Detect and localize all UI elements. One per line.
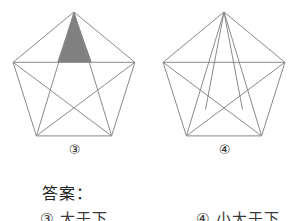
apex-line-left (206, 12, 225, 110)
apex-fan-lines (206, 12, 243, 110)
figure-3-label: ③ (0, 142, 149, 158)
pentagon-4-drawing (150, 0, 299, 142)
diagonal-top-to-bottomright (74, 12, 112, 136)
diagonal-top-to-bottomleft (186, 12, 224, 136)
figure-4-pentagon: ④ (150, 0, 299, 170)
answer-item-3: ③ 大于下 (40, 210, 108, 221)
pentagon-diagonals (163, 12, 285, 136)
apex-line-right (224, 12, 243, 110)
answer-item-4: ④ 小大于下 (196, 210, 280, 221)
answer-heading: 答案： (42, 184, 93, 204)
pentagon-outline (163, 12, 285, 136)
diagonal-top-to-bottomright (224, 12, 262, 136)
figures-row: ③ ④ (0, 0, 299, 170)
page-root: ③ ④ (0, 0, 299, 221)
diagonal-top-to-bottomleft (36, 12, 74, 136)
pentagon-3-drawing (0, 0, 149, 142)
figure-4-label: ④ (150, 142, 299, 158)
diagonal-left-to-bottomright (13, 62, 112, 136)
diagonal-right-to-bottomleft (36, 62, 134, 136)
figure-3-pentagon: ③ (0, 0, 149, 170)
